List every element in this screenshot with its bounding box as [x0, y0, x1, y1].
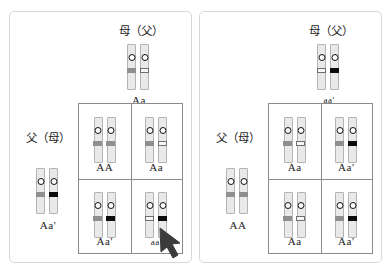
band-allele-A [127, 68, 136, 73]
chromosome [226, 168, 235, 214]
punnett-cell[interactable]: Aa' [321, 179, 373, 254]
chromosome [36, 168, 45, 214]
chromosome [145, 117, 154, 163]
band-allele-A [145, 141, 154, 146]
band-allele-A [335, 216, 344, 221]
band-allele-A [106, 141, 115, 146]
offspring-chromosome-pair [94, 192, 116, 238]
chromosome [297, 117, 306, 163]
punnett-cell[interactable]: Aa' [79, 179, 131, 254]
band-allele-a [145, 216, 154, 221]
chromosome [317, 44, 326, 90]
band-allele-A [239, 192, 248, 197]
centromere-icon [331, 54, 338, 61]
centromere-icon [146, 202, 153, 209]
centromere-icon [349, 127, 356, 134]
chromosome [107, 192, 116, 238]
father-genotype-right: AA [213, 219, 263, 231]
centromere-icon [227, 178, 234, 185]
band-allele-a-prime [348, 216, 357, 221]
offspring-genotype: Aa [269, 235, 321, 247]
centromere-icon [298, 202, 305, 209]
centromere-icon [336, 202, 343, 209]
punnett-cell[interactable]: Aa [269, 104, 321, 179]
band-allele-a-prime [158, 216, 167, 221]
chromosome [348, 117, 357, 163]
offspring-genotype: Aa [131, 161, 183, 173]
band-allele-A [283, 216, 292, 221]
offspring-chromosome-pair [284, 117, 306, 163]
mother-chromosome-pair-right [317, 44, 339, 90]
offspring-genotype: Aa' [321, 235, 373, 247]
chromosome [239, 168, 248, 214]
chromosome [330, 44, 339, 90]
band-allele-a [317, 68, 326, 73]
father-chromosome-pair-left [36, 168, 58, 214]
chromosome [94, 117, 103, 163]
chromosome [297, 192, 306, 238]
centromere-icon [141, 54, 148, 61]
offspring-genotype: aa' [131, 237, 183, 247]
chromosome [145, 192, 154, 238]
band-allele-a-prime [348, 141, 357, 146]
centromere-icon [146, 127, 153, 134]
chromosome [107, 117, 116, 163]
offspring-chromosome-pair [335, 117, 357, 163]
chromosome [49, 168, 58, 214]
band-allele-A [36, 192, 45, 197]
centromere-icon [108, 202, 115, 209]
offspring-chromosome-pair [335, 192, 357, 238]
band-allele-a [158, 141, 167, 146]
band-allele-a-prime [330, 68, 339, 73]
offspring-chromosome-pair [94, 117, 116, 163]
punnett-cell-highlighted[interactable]: aa' [131, 179, 183, 254]
centromere-icon [285, 127, 292, 134]
chromosome [140, 44, 149, 90]
band-allele-a-prime [49, 192, 58, 197]
chromosome [158, 192, 167, 238]
band-allele-a [296, 216, 305, 221]
panel-right: 母（父） aa' 父（母） AA [199, 11, 382, 263]
panel-left: 母（父） Aa 父（母） Aa' [9, 11, 192, 263]
centromere-icon [298, 127, 305, 134]
punnett-cell[interactable]: Aa [131, 104, 183, 179]
punnett-cell[interactable]: Aa [269, 179, 321, 254]
band-allele-A [226, 192, 235, 197]
centromere-icon [108, 127, 115, 134]
offspring-chromosome-pair [145, 117, 167, 163]
chromosome [348, 192, 357, 238]
chromosome [127, 44, 136, 90]
centromere-icon [95, 127, 102, 134]
punnett-square-left: AA Aa [78, 103, 183, 254]
band-allele-A [93, 141, 102, 146]
mother-label-left: 母（父） [101, 22, 181, 38]
chromosome [94, 192, 103, 238]
band-allele-a-prime [106, 216, 115, 221]
figure-canvas: 母（父） Aa 父（母） Aa' [0, 0, 391, 273]
chromosome [158, 117, 167, 163]
father-genotype-left: Aa' [23, 219, 73, 231]
punnett-square-right: Aa Aa' [268, 103, 373, 254]
offspring-chromosome-pair [145, 192, 167, 238]
chromosome [284, 117, 293, 163]
centromere-icon [336, 127, 343, 134]
father-chromosome-pair-right [226, 168, 248, 214]
centromere-icon [50, 178, 57, 185]
band-allele-a [140, 68, 149, 73]
offspring-genotype: Aa' [79, 235, 131, 247]
chromosome [335, 117, 344, 163]
chromosome [284, 192, 293, 238]
centromere-icon [37, 178, 44, 185]
chromosome [335, 192, 344, 238]
centromere-icon [159, 202, 166, 209]
centromere-icon [128, 54, 135, 61]
punnett-cell[interactable]: AA [79, 104, 131, 179]
band-allele-A [335, 141, 344, 146]
centromere-icon [95, 202, 102, 209]
band-allele-a [296, 141, 305, 146]
mother-chromosome-pair-left [127, 44, 149, 90]
father-label-left: 父（母） [12, 129, 84, 145]
offspring-chromosome-pair [284, 192, 306, 238]
punnett-cell[interactable]: Aa' [321, 104, 373, 179]
centromere-icon [318, 54, 325, 61]
